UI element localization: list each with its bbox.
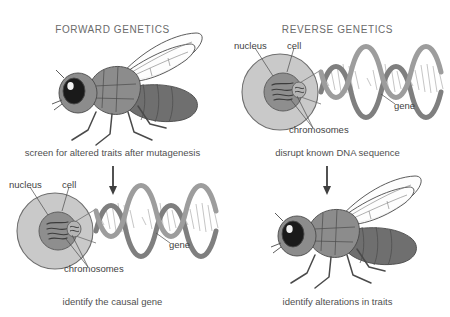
panel-forward-genetics-top: FORWARD GENETICS [0, 0, 225, 158]
fruit-fly-illustration [225, 159, 450, 299]
dna-helix-shape [96, 186, 218, 257]
fruit-fly-illustration [0, 0, 225, 150]
caption-forward-top: screen for altered traits after mutagene… [0, 147, 225, 158]
caption-reverse-bottom: identify alterations in traits [225, 296, 450, 307]
caption-reverse-top: disrupt known DNA sequence [225, 147, 450, 158]
label-nucleus: nucleus [9, 179, 42, 190]
label-chromosomes: chromosomes [289, 124, 349, 135]
caption-forward-bottom: identify the causal gene [0, 296, 225, 307]
label-nucleus: nucleus [234, 40, 267, 51]
dna-helix-shape [321, 47, 443, 118]
panel-reverse-genetics-top: REVERSE GENETICS [225, 0, 450, 158]
panel-reverse-genetics-bottom: identify alterations in traits [225, 159, 450, 317]
label-cell: cell [62, 179, 76, 190]
label-cell: cell [287, 40, 301, 51]
panel-forward-genetics-bottom: nucleus cell gene chromosomes identify t… [0, 159, 225, 317]
label-gene: gene [394, 100, 415, 111]
label-chromosomes: chromosomes [64, 263, 124, 274]
label-gene: gene [169, 239, 190, 250]
